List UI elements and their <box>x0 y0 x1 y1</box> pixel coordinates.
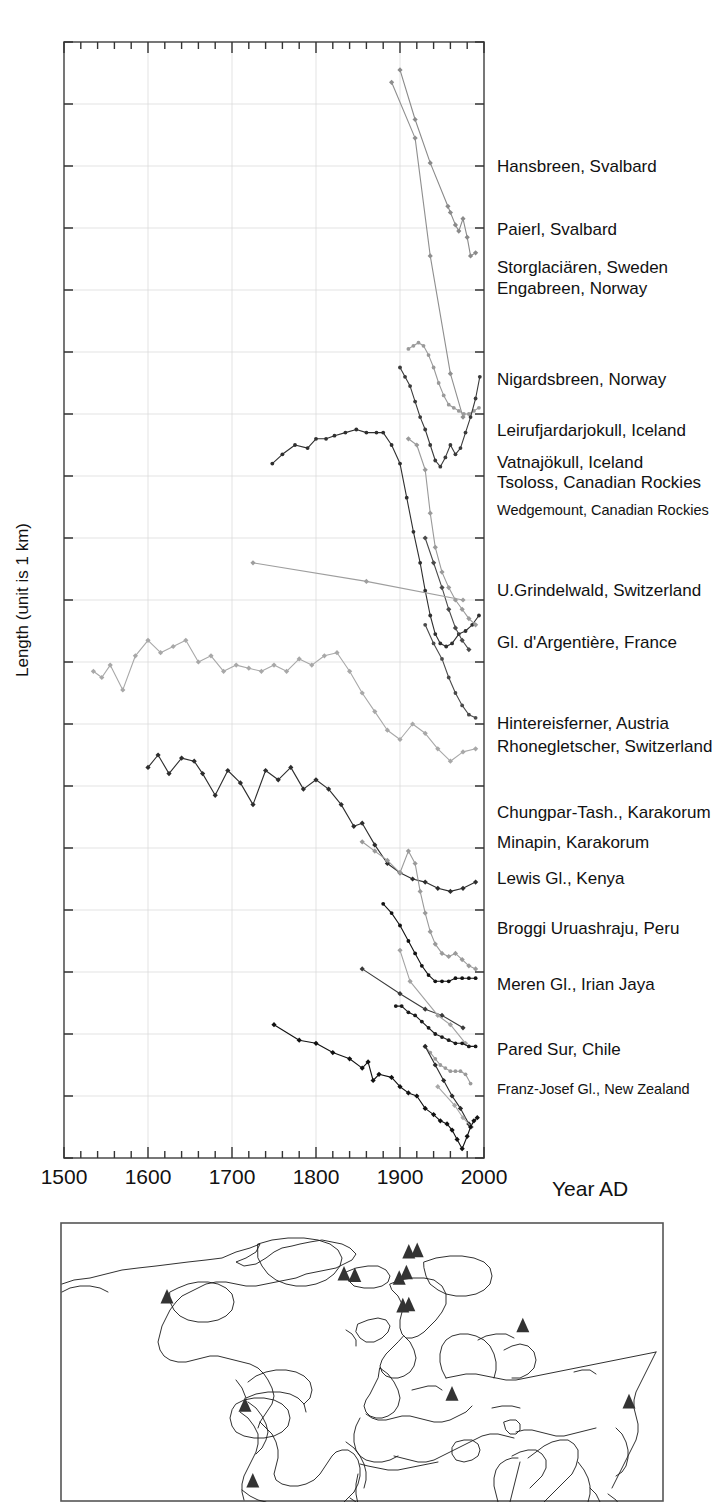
x-tick-labels: 150016001700180019002000 <box>41 1165 508 1188</box>
glacier-length-figure: 150016001700180019002000 Hansbreen, Sval… <box>0 0 724 1506</box>
series-marker <box>171 644 176 649</box>
series-marker <box>462 412 466 416</box>
series-marker <box>423 880 428 885</box>
series-marker <box>428 160 433 165</box>
series-marker <box>270 462 274 466</box>
series-marker <box>381 902 385 906</box>
series-marker <box>443 456 447 460</box>
series-12 <box>381 902 477 983</box>
series-marker <box>440 657 444 661</box>
series-marker <box>477 406 481 410</box>
series-marker <box>250 560 255 565</box>
series-marker <box>474 716 478 720</box>
y-axis-title: Length (unit is 1 km) <box>13 523 32 677</box>
series-marker <box>438 465 442 469</box>
series-marker <box>432 366 436 370</box>
series-marker <box>333 434 337 438</box>
world-map-panel <box>60 1222 664 1502</box>
series-marker <box>246 666 251 671</box>
series-marker <box>398 462 402 466</box>
series-marker <box>449 443 453 447</box>
series-label-0: Hansbreen, Svalbard <box>497 157 657 176</box>
glacier-length-chart: 150016001700180019002000 Hansbreen, Sval… <box>0 0 724 1210</box>
x-tick-label: 1500 <box>41 1165 88 1188</box>
x-tick-label: 1700 <box>209 1165 256 1188</box>
series-marker <box>438 1063 442 1067</box>
series-marker <box>456 229 461 234</box>
series-marker <box>375 431 379 435</box>
series-marker <box>433 1057 437 1061</box>
series-18 <box>435 1084 474 1130</box>
series-marker <box>314 437 318 441</box>
series-marker <box>454 1069 458 1073</box>
series-line <box>392 82 463 417</box>
series-marker <box>428 929 433 934</box>
series-line <box>408 343 479 414</box>
series-marker <box>420 1020 424 1024</box>
series-marker <box>460 1025 465 1030</box>
series-marker <box>455 1137 460 1142</box>
series-marker <box>418 415 422 419</box>
series-marker <box>447 676 451 680</box>
series-marker <box>478 375 482 379</box>
series-marker <box>464 1072 468 1076</box>
series-line <box>425 1046 469 1124</box>
series-line <box>383 904 475 982</box>
series-marker <box>330 1050 335 1055</box>
series-marker <box>428 443 432 447</box>
series-label-6: Vatnajökull, Iceland <box>497 453 643 472</box>
series-marker <box>381 431 385 435</box>
series-marker <box>447 1038 451 1042</box>
series-label-7: Tsoloss, Canadian Rockies <box>497 473 701 492</box>
series-marker <box>450 642 454 646</box>
series-marker <box>413 861 418 866</box>
series-marker <box>418 889 423 894</box>
series-marker <box>441 1078 446 1083</box>
series-line <box>93 640 475 761</box>
series-marker <box>474 976 478 980</box>
series-marker <box>433 459 437 463</box>
series-marker <box>457 409 461 413</box>
series-label-18: Pared Sur, Chile <box>497 1040 621 1059</box>
series-9 <box>91 638 478 764</box>
series-marker <box>443 1066 447 1070</box>
series-marker <box>460 597 465 602</box>
series-5 <box>406 436 478 627</box>
series-marker <box>445 204 450 209</box>
series-marker <box>344 431 348 435</box>
series-7 <box>250 560 465 602</box>
series-line <box>400 950 466 1043</box>
series-label-14: Minapin, Karakorum <box>497 833 649 852</box>
series-label-1: Paierl, Svalbard <box>497 220 617 239</box>
series-marker <box>447 403 451 407</box>
series-marker <box>431 560 436 565</box>
series-line <box>253 563 463 600</box>
series-marker <box>465 1134 470 1139</box>
series-marker <box>403 375 407 379</box>
series-marker <box>293 443 297 447</box>
series-label-11: Hintereisferner, Austria <box>497 714 670 733</box>
series-marker <box>433 632 437 636</box>
series-marker <box>271 1022 276 1027</box>
series-marker <box>448 210 453 215</box>
series-marker <box>389 80 394 85</box>
world-map-svg <box>60 1222 664 1502</box>
series-marker <box>423 535 428 540</box>
series-marker <box>423 1007 428 1012</box>
series-marker <box>469 1082 473 1086</box>
series-label-12: Rhonegletscher, Switzerland <box>497 737 712 756</box>
series-marker <box>449 1069 453 1073</box>
series-marker <box>428 511 433 516</box>
series-marker <box>418 561 422 565</box>
series-marker <box>351 824 356 829</box>
series-marker <box>360 821 365 826</box>
series-marker <box>453 222 458 227</box>
series-label-2: Storglaciären, Sweden <box>497 258 668 277</box>
series-marker <box>364 579 369 584</box>
series-marker <box>437 381 441 385</box>
series-marker <box>428 253 433 258</box>
series-marker <box>459 1069 463 1073</box>
series-marker <box>473 746 478 751</box>
series-marker <box>407 1010 411 1014</box>
series-marker <box>446 954 451 959</box>
